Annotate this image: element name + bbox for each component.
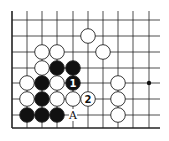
black-stone [35, 92, 50, 107]
white-stone [50, 76, 65, 91]
white-stone [35, 61, 50, 76]
black-stone [66, 61, 81, 76]
point-label-A: A [68, 109, 78, 122]
go-board: A 12 [0, 0, 169, 141]
white-stone [81, 29, 96, 44]
white-stone [111, 92, 126, 107]
black-stone [50, 108, 65, 123]
white-stone [111, 108, 126, 123]
move-number-2: 2 [85, 94, 92, 105]
white-stone [111, 76, 126, 91]
black-stone [50, 61, 65, 76]
white-stone [20, 92, 35, 107]
black-stone [35, 108, 50, 123]
black-stone [20, 108, 35, 123]
white-stone [50, 45, 65, 60]
white-stone [20, 76, 35, 91]
white-stone [50, 92, 65, 107]
move-number-1: 1 [70, 78, 77, 89]
star-point [147, 81, 151, 85]
white-stone [35, 45, 50, 60]
white-stone [66, 92, 81, 107]
black-stone [35, 76, 50, 91]
board-marks: A [68, 81, 151, 122]
white-stone [96, 45, 111, 60]
